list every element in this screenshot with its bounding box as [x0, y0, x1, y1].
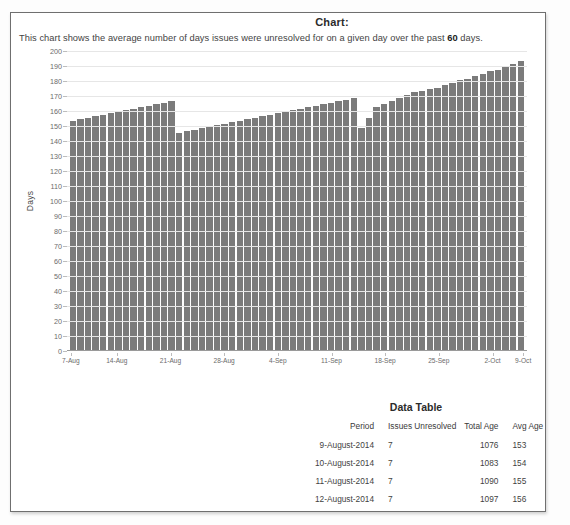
table-row: 11-August-201471090155 [311, 472, 547, 490]
chart-bar [389, 101, 395, 350]
y-axis-tick-label: 10 [54, 332, 62, 341]
chart-bar [358, 128, 364, 350]
gridline [67, 186, 527, 187]
chart-bar [214, 125, 220, 350]
chart-bar [366, 118, 372, 351]
y-axis-tick-label: 190 [50, 62, 62, 71]
x-axis-tickmark [71, 353, 72, 356]
chart-bar [130, 109, 136, 351]
y-axis-tickmark [63, 201, 67, 202]
gridline [67, 141, 527, 142]
chart-bar [351, 98, 357, 350]
y-axis-tickmark [63, 216, 67, 217]
y-axis-tickmark [63, 351, 67, 352]
x-axis-tickmark [332, 353, 333, 356]
y-axis-tick-label: 30 [54, 302, 62, 311]
cell-avg-age: 154 [504, 454, 547, 472]
y-axis-tick-label: 40 [54, 287, 62, 296]
cell-total-age: 1076 [460, 436, 504, 454]
x-axis-tick-label: 21-Aug [160, 357, 181, 364]
y-axis-tick-label: 0 [58, 347, 62, 356]
y-axis-tick-label: 20 [54, 317, 62, 326]
gridline [67, 216, 527, 217]
x-axis-tickmark [171, 353, 172, 356]
x-axis-tick-label: 7-Aug [62, 357, 80, 364]
y-axis-tickmark [63, 51, 67, 52]
gridline [67, 321, 527, 322]
chart-bar [510, 64, 516, 351]
y-axis-tick-label: 160 [50, 107, 62, 116]
column-header-total-age: Total Age [460, 419, 504, 436]
chart-bar [146, 106, 152, 351]
gridline [67, 201, 527, 202]
y-axis-tick-label: 50 [54, 272, 62, 281]
chart-bar [92, 116, 98, 350]
y-axis-ticks: 2001901801701601501401301201101009080706… [39, 51, 65, 351]
chart-bar [404, 95, 410, 350]
gridline [67, 261, 527, 262]
gridline [67, 156, 527, 157]
cell-avg-age: 156 [504, 490, 547, 508]
x-axis-tick-label: 9-Oct [515, 357, 531, 364]
document-frame: Chart: This chart shows the average numb… [10, 12, 546, 512]
chart-bar [244, 119, 250, 350]
y-axis-tickmark [63, 81, 67, 82]
y-axis-tick-label: 110 [51, 182, 62, 191]
chart-bar [168, 101, 174, 350]
gridline [67, 111, 527, 112]
cell-issues-unresolved: 7 [384, 436, 460, 454]
chart-bar [502, 67, 508, 351]
cell-total-age: 1090 [460, 472, 504, 490]
description-emphasis: 60 [447, 33, 457, 43]
y-axis-tickmark [63, 276, 67, 277]
chart-bar [176, 133, 182, 351]
cell-period: 9-August-2014 [311, 436, 384, 454]
y-axis-tickmark [63, 156, 67, 157]
cell-period: 12-August-2014 [311, 490, 384, 508]
chart-bar [343, 100, 349, 351]
y-axis-tick-label: 120 [50, 167, 62, 176]
column-header-avg-age: Avg Age [504, 419, 547, 436]
chart-bar [427, 89, 433, 350]
chart-bar [472, 76, 478, 351]
y-axis-tickmark [63, 186, 67, 187]
description-suffix: days. [458, 33, 483, 43]
column-header-issues-unresolved: Issues Unresolved [384, 419, 460, 436]
x-axis-tickmark [278, 353, 279, 356]
x-axis-tick-label: 25-Sep [428, 357, 449, 364]
chart-bar [442, 85, 448, 351]
gridline [67, 336, 527, 337]
y-axis-tick-label: 140 [50, 137, 62, 146]
chart-description: This chart shows the average number of d… [19, 33, 535, 43]
data-table-title: Data Table [311, 401, 547, 413]
gridline [67, 51, 527, 52]
cell-total-age: 1097 [460, 490, 504, 508]
table-body: 9-August-20147107615310-August-201471083… [311, 436, 547, 508]
gridline [67, 276, 527, 277]
x-axis-tick-label: 4-Sep [269, 357, 287, 364]
y-axis-title: Days [23, 51, 37, 351]
y-axis-tickmark [63, 261, 67, 262]
chart-bar [252, 118, 258, 351]
chart-bar [85, 118, 91, 351]
chart-bar [480, 74, 486, 350]
chart-bar [77, 119, 83, 350]
chart-bar [411, 92, 417, 350]
cell-issues-unresolved: 7 [384, 472, 460, 490]
y-axis-tickmark [63, 111, 67, 112]
gridline [67, 231, 527, 232]
cell-total-age: 1083 [460, 454, 504, 472]
x-axis-tick-label: 2-Oct [484, 357, 500, 364]
data-table: Period Issues Unresolved Total Age Avg A… [311, 419, 547, 508]
x-axis-tickmark [493, 353, 494, 356]
table-header-row: Period Issues Unresolved Total Age Avg A… [311, 419, 547, 436]
chart-bar [184, 131, 190, 350]
chart-bar [138, 107, 144, 350]
y-axis-tickmark [63, 321, 67, 322]
y-axis-tickmark [63, 96, 67, 97]
cell-issues-unresolved: 7 [384, 454, 460, 472]
y-axis-tick-label: 70 [54, 242, 62, 251]
chart-bar [221, 124, 227, 351]
gridline [67, 66, 527, 67]
gridline [67, 81, 527, 82]
